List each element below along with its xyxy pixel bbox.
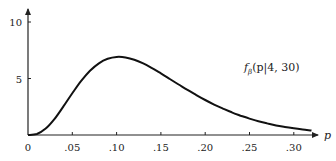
x-tick-label: .25	[242, 142, 258, 153]
x-axis-label: p	[324, 129, 331, 142]
chart: 0.05.10.15.20.25.30 510 p fβ(p|4, 30)	[0, 0, 336, 161]
x-tick-label: 0	[25, 142, 31, 153]
x-tick-label: .10	[109, 142, 125, 153]
curve-annotation: fβ(p|4, 30)	[243, 61, 299, 76]
x-tick-label: .15	[153, 142, 169, 153]
x-tick-label: .20	[197, 142, 213, 153]
y-tick-label: 5	[16, 74, 22, 85]
x-tick-label: .05	[64, 142, 80, 153]
x-tick-label: .30	[286, 142, 302, 153]
y-tick-label: 10	[9, 17, 22, 28]
